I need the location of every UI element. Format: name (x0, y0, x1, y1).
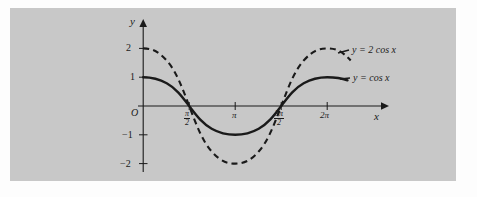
x-axis (138, 102, 389, 110)
curve-label-2cosx: y = 2 cos x (352, 44, 396, 55)
x-tick-label-pi-over-2: π 2 (184, 110, 190, 127)
x-tick-label-pi: π (232, 110, 237, 120)
x-axis-label: x (374, 110, 379, 122)
graph-svg (0, 0, 477, 197)
x-tick-label-2pi: 2π (320, 110, 329, 120)
fraction-pi-over-2: π 2 (184, 110, 190, 127)
y-axis-label: y (130, 15, 135, 27)
y-tick-label-1: 1 (130, 71, 135, 82)
cosine-graph-figure: y x O 2 1 −1 −2 π 2 π 3π 2 2π y = 2 cos … (0, 0, 477, 197)
fraction-3pi-over-2: 3π 2 (274, 110, 284, 127)
curve-label-cosx: y = cos x (353, 72, 389, 83)
x-axis-arrow (381, 102, 389, 110)
figure-page: y x O 2 1 −1 −2 π 2 π 3π 2 2π y = 2 cos … (0, 0, 477, 197)
y-axis (139, 19, 147, 172)
y-tick-label-2: 2 (126, 42, 131, 53)
x-tick-label-3pi-over-2: 3π 2 (274, 110, 284, 127)
y-axis-arrow (139, 19, 147, 27)
y-tick-label-minus1: −1 (122, 129, 133, 140)
leader-line-cosx (340, 78, 350, 79)
origin-label: O (131, 107, 138, 118)
y-tick-label-minus2: −2 (120, 158, 131, 169)
